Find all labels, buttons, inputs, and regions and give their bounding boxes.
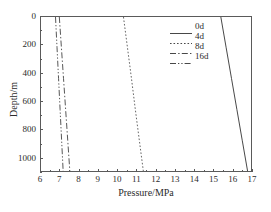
x-tick-mark-minor	[165, 170, 166, 172]
x-tick-mark-minor	[242, 170, 243, 172]
x-tick-mark-minor	[127, 170, 128, 172]
series-layer	[41, 17, 251, 171]
x-tick-mark-minor	[204, 170, 205, 172]
y-tick-mark	[40, 129, 43, 130]
x-tick-mark	[117, 169, 118, 172]
y-tick-mark	[40, 44, 43, 45]
x-tick-label: 14	[190, 175, 199, 184]
x-tick-label: 16	[228, 175, 237, 184]
legend-line-sample	[170, 33, 192, 40]
legend-label: 16d	[195, 52, 209, 61]
x-axis-title: Pressure/MPa	[40, 187, 252, 198]
pressure-depth-chart: 67891011121314151617 02004006008001000 P…	[0, 0, 271, 212]
x-tick-mark	[194, 169, 195, 172]
x-tick-label: 13	[170, 175, 179, 184]
x-tick-mark-minor	[146, 170, 147, 172]
y-tick-label: 600	[23, 97, 37, 106]
x-tick-mark	[233, 169, 234, 172]
legend-line-sample	[170, 43, 192, 50]
y-axis-title: Depth/m	[8, 60, 19, 140]
x-tick-mark-minor	[88, 170, 89, 172]
plot-area	[40, 16, 252, 172]
legend-item-4d[interactable]: 4d	[170, 32, 209, 41]
legend-item-0d[interactable]: 0d	[170, 22, 209, 31]
x-tick-mark	[98, 169, 99, 172]
series-line-8d	[59, 17, 70, 171]
x-tick-label: 8	[76, 175, 81, 184]
y-tick-mark-minor	[40, 115, 42, 116]
y-tick-mark	[40, 16, 43, 17]
x-tick-mark	[136, 169, 137, 172]
x-tick-label: 12	[151, 175, 160, 184]
x-tick-mark	[79, 169, 80, 172]
y-tick-label: 400	[23, 68, 37, 77]
x-tick-mark-minor	[50, 170, 51, 172]
x-tick-label: 7	[57, 175, 62, 184]
legend-item-16d[interactable]: 16d	[170, 52, 209, 61]
series-line-16d	[56, 17, 64, 171]
y-tick-mark-minor	[40, 144, 42, 145]
y-tick-mark-minor	[40, 87, 42, 88]
x-tick-label: 6	[38, 175, 43, 184]
x-tick-label: 17	[248, 175, 257, 184]
series-line-0d	[221, 17, 248, 171]
series-line-4d	[123, 17, 143, 171]
x-tick-mark	[252, 169, 253, 172]
x-tick-label: 9	[96, 175, 101, 184]
y-tick-mark	[40, 158, 43, 159]
y-tick-mark-minor	[40, 30, 42, 31]
legend-label: 0d	[195, 22, 204, 31]
legend-line-sample	[170, 53, 192, 60]
x-tick-mark	[175, 169, 176, 172]
legend-item-8d[interactable]: 8d	[170, 42, 209, 51]
x-tick-mark-minor	[107, 170, 108, 172]
legend: 0d4d8d16d	[170, 22, 209, 61]
x-tick-mark-minor	[223, 170, 224, 172]
x-tick-mark-minor	[69, 170, 70, 172]
legend-line-sample	[170, 23, 192, 30]
y-tick-label: 800	[23, 125, 37, 134]
y-tick-mark-minor	[40, 59, 42, 60]
y-tick-mark	[40, 101, 43, 102]
x-tick-label: 11	[132, 175, 141, 184]
x-tick-mark-minor	[185, 170, 186, 172]
x-tick-mark	[156, 169, 157, 172]
y-tick-mark	[40, 73, 43, 74]
x-tick-mark	[59, 169, 60, 172]
legend-label: 8d	[195, 42, 204, 51]
y-tick-label: 0	[32, 12, 37, 21]
y-tick-mark-minor	[40, 172, 42, 173]
x-tick-mark	[213, 169, 214, 172]
x-tick-label: 10	[113, 175, 122, 184]
x-tick-label: 15	[209, 175, 218, 184]
y-tick-label: 200	[23, 40, 37, 49]
legend-label: 4d	[195, 32, 204, 41]
y-tick-label: 1000	[18, 153, 36, 162]
